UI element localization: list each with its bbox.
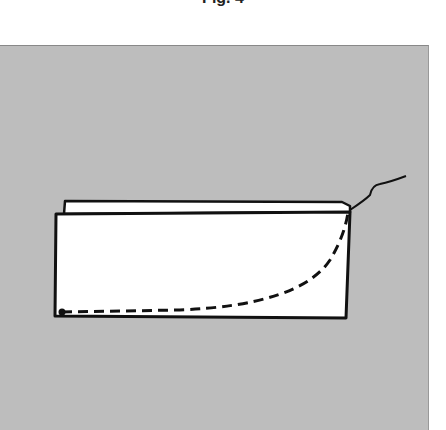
stitch-start-dot xyxy=(59,309,66,316)
fabric-front-layer xyxy=(55,212,350,318)
thread-tail xyxy=(350,176,406,210)
